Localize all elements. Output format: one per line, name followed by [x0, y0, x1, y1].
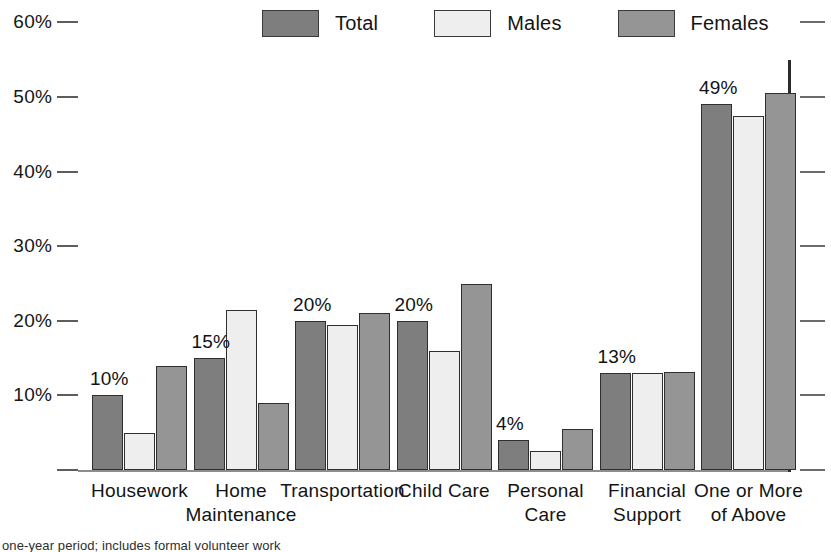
category-label-line: of Above [674, 503, 824, 527]
y-axis-tick-right-20 [800, 320, 825, 322]
category-label-line: One or More [674, 479, 824, 503]
bar-chart: Total Males Females 60%50%40%30%20%10%10… [0, 0, 831, 552]
chart-footnote: one-year period; includes formal volunte… [2, 538, 281, 552]
y-axis-tick-0 [57, 469, 78, 471]
bar-females-2 [359, 313, 390, 470]
x-axis-baseline [78, 470, 790, 472]
y-axis-tick-20 [57, 320, 78, 322]
y-axis-tick-right-10 [800, 394, 825, 396]
plot-area: 60%50%40%30%20%10%10%Housework15%HomeMai… [0, 0, 831, 552]
bar-total-0 [92, 395, 123, 470]
y-axis-tick-50 [57, 96, 78, 98]
bar-males-0 [124, 433, 155, 470]
bar-females-1 [258, 403, 289, 470]
y-axis-label-60: 60% [0, 11, 52, 33]
bar-total-6 [701, 104, 732, 470]
y-axis-tick-10 [57, 394, 78, 396]
bar-females-5 [664, 372, 695, 470]
bar-females-6 [765, 93, 796, 470]
bar-total-3 [397, 321, 428, 470]
y-axis-label-40: 40% [0, 161, 52, 183]
bar-total-5 [600, 373, 631, 470]
y-axis-label-30: 30% [0, 235, 52, 257]
bar-females-4 [562, 429, 593, 470]
y-axis-tick-right-60 [800, 21, 825, 23]
x-axis-category-label-6: One or Moreof Above [674, 479, 824, 527]
bar-males-2 [327, 325, 358, 470]
bar-value-label-3: 20% [395, 294, 434, 316]
y-axis-tick-right-30 [800, 245, 825, 247]
y-axis-tick-30 [57, 245, 78, 247]
bar-females-3 [461, 284, 492, 471]
bar-males-3 [429, 351, 460, 470]
y-axis-tick-40 [57, 171, 78, 173]
bar-total-4 [498, 440, 529, 470]
y-axis-tick-right-40 [800, 171, 825, 173]
bar-males-1 [226, 310, 257, 470]
bar-total-1 [194, 358, 225, 470]
bar-value-label-6: 49% [699, 77, 738, 99]
y-axis-label-20: 20% [0, 310, 52, 332]
y-axis-label-10: 10% [0, 384, 52, 406]
y-axis-tick-right-50 [800, 96, 825, 98]
bar-total-2 [295, 321, 326, 470]
bar-males-4 [530, 451, 561, 470]
bar-males-5 [632, 373, 663, 470]
bar-males-6 [733, 116, 764, 470]
bar-value-label-4: 4% [496, 413, 524, 435]
bar-value-label-0: 10% [90, 368, 129, 390]
bar-value-label-5: 13% [598, 346, 637, 368]
bar-value-label-1: 15% [192, 331, 231, 353]
y-axis-tick-60 [57, 21, 78, 23]
bar-value-label-2: 20% [293, 294, 332, 316]
y-axis-label-50: 50% [0, 86, 52, 108]
y-axis-tick-right-0 [800, 469, 825, 471]
category-label-line: Maintenance [166, 503, 316, 527]
bar-females-0 [156, 366, 187, 470]
